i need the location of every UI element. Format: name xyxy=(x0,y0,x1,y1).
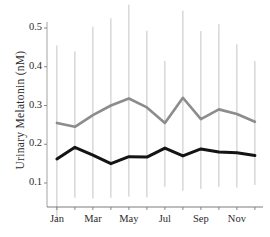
y-tick-label: 0.5 xyxy=(8,21,42,32)
melatonin-line-chart: Urinary Melatonin (nM) 0.10.20.30.40.5 J… xyxy=(0,0,270,237)
x-tick-label: Mar xyxy=(73,213,113,224)
x-tick-label: Sep xyxy=(181,213,221,224)
y-tick-label: 0.4 xyxy=(8,60,42,71)
x-tick-label: Jan xyxy=(37,213,77,224)
chart-plot-area xyxy=(0,0,270,237)
series-line-upper-gray-series xyxy=(57,98,255,127)
y-tick-label: 0.1 xyxy=(8,176,42,187)
x-tick-label: May xyxy=(109,213,149,224)
series-line-lower-black-series xyxy=(57,147,255,163)
series-lines-group xyxy=(57,98,255,164)
y-tick-label: 0.3 xyxy=(8,99,42,110)
x-tick-label: Nov xyxy=(217,213,257,224)
x-tick-label: Jul xyxy=(145,213,185,224)
y-tick-label: 0.2 xyxy=(8,137,42,148)
axis-group xyxy=(44,22,263,210)
